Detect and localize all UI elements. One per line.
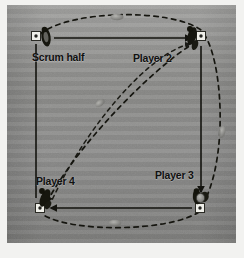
player-figure-scrum-half [40, 27, 52, 47]
cone-marker-scrum-half [32, 32, 41, 41]
rugby-ball-right [217, 125, 226, 139]
rugby-ball-diagonal [94, 97, 106, 109]
rugby-ball-top [110, 14, 123, 21]
rugby-ball-bottom [109, 220, 122, 226]
cone-marker-player-3 [196, 204, 205, 213]
drill-overlay [0, 0, 244, 258]
label-player-4: Player 4 [36, 176, 75, 187]
label-player-3: Player 3 [155, 170, 194, 181]
label-player-2: Player 2 [133, 53, 172, 64]
drill-diagram: Scrum half Player 2 Player 3 Player 4 [0, 0, 244, 258]
label-scrum-half: Scrum half [32, 52, 84, 63]
cone-marker-player-2 [197, 32, 206, 41]
